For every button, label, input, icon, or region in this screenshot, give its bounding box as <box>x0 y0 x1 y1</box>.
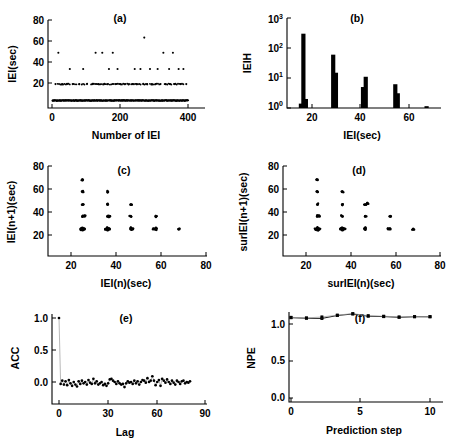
svg-text:0.0: 0.0 <box>34 377 48 388</box>
svg-text:10: 10 <box>424 406 436 417</box>
panel-c-title: (c) <box>118 164 131 176</box>
svg-text:0: 0 <box>49 112 55 123</box>
panel-d-ytick-marks <box>283 166 287 235</box>
panel-b-bars <box>299 34 429 108</box>
svg-text:0.5: 0.5 <box>271 355 285 366</box>
panel-f-xlabel: Prediction step <box>326 424 402 436</box>
panel-a-yticks: 80 60 40 20 <box>33 15 45 89</box>
svg-text:80: 80 <box>33 15 45 26</box>
svg-text:60: 60 <box>155 260 167 271</box>
svg-text:40: 40 <box>110 260 122 271</box>
svg-text:60: 60 <box>33 184 45 195</box>
panel-d-svg: (d) 80 60 40 20 20 40 60 80 <box>229 150 459 300</box>
svg-text:90: 90 <box>199 408 211 419</box>
svg-text:80: 80 <box>268 161 280 172</box>
svg-text:20: 20 <box>33 78 45 89</box>
svg-text:100: 100 <box>268 100 283 112</box>
figure-root: (a) 80 60 40 20 0 200 400 <box>0 0 459 446</box>
panel-a-ytick-marks <box>48 20 52 83</box>
panel-e-xlabel: Lag <box>116 426 135 438</box>
svg-text:20: 20 <box>300 260 312 271</box>
svg-text:102: 102 <box>268 42 283 54</box>
panel-c-xtick-marks <box>71 252 206 256</box>
panel-d-yticks: 80 60 40 20 <box>268 161 280 241</box>
panel-a-ylabel: IEI(sec) <box>6 45 18 82</box>
svg-text:0.0: 0.0 <box>271 392 285 403</box>
panel-b-xlabel: IEI(sec) <box>343 129 380 141</box>
panel-a-svg: (a) 80 60 40 20 0 200 400 <box>0 0 230 150</box>
panel-e: (e) 1.0 0.5 0.0 0 30 60 90 <box>0 300 230 446</box>
panel-a-xtick-marks <box>52 104 188 108</box>
svg-text:60: 60 <box>268 184 280 195</box>
svg-text:60: 60 <box>33 36 45 47</box>
panel-b-ytick-marks <box>287 18 291 108</box>
panel-a-title: (a) <box>114 12 127 24</box>
svg-text:5: 5 <box>357 406 363 417</box>
svg-text:1.0: 1.0 <box>271 319 285 330</box>
panel-b-title: (b) <box>350 12 363 24</box>
svg-text:80: 80 <box>33 161 45 172</box>
svg-text:20: 20 <box>268 230 280 241</box>
panel-a-points <box>52 37 190 102</box>
panel-a-axes <box>48 20 205 108</box>
svg-text:0: 0 <box>56 408 62 419</box>
svg-text:40: 40 <box>354 112 366 123</box>
svg-text:103: 103 <box>268 13 283 25</box>
panel-c: (c) 80 60 40 20 20 40 60 80 <box>0 150 230 300</box>
svg-text:0: 0 <box>288 406 294 417</box>
panel-c-ylabel: IEI(n+1)(sec) <box>5 181 17 244</box>
panel-b: (b) 103 102 101 100 <box>229 0 459 150</box>
panel-d: (d) 80 60 40 20 20 40 60 80 <box>229 150 459 300</box>
svg-text:20: 20 <box>65 260 77 271</box>
panel-c-ytick-marks <box>48 166 52 235</box>
panel-c-svg: (c) 80 60 40 20 20 40 60 80 <box>0 150 230 300</box>
panel-e-svg: (e) 1.0 0.5 0.0 0 30 60 90 <box>0 300 230 446</box>
panel-f-xticks: 0 5 10 <box>288 406 436 417</box>
panel-d-title: (d) <box>352 164 365 176</box>
panel-e-yticks: 1.0 0.5 0.0 <box>34 313 48 388</box>
svg-text:400: 400 <box>180 112 197 123</box>
svg-text:1.0: 1.0 <box>34 313 48 324</box>
svg-text:40: 40 <box>33 207 45 218</box>
panel-d-xtick-marks <box>306 252 440 256</box>
svg-text:40: 40 <box>33 57 45 68</box>
panel-a: (a) 80 60 40 20 0 200 400 <box>0 0 230 150</box>
panel-c-xlabel: IEI(n)(sec) <box>101 277 152 289</box>
panel-f-xtick-marks <box>291 398 430 402</box>
panel-d-xlabel: surIEI(n)(sec) <box>327 277 394 289</box>
svg-text:60: 60 <box>403 112 415 123</box>
panel-d-xticks: 20 40 60 80 <box>300 260 446 271</box>
panel-e-series <box>58 317 192 389</box>
panel-a-xlabel: Number of IEI <box>92 129 160 141</box>
panel-b-ylabel: IEIH <box>241 53 253 73</box>
svg-text:200: 200 <box>112 112 129 123</box>
panel-d-ylabel: surIEI(n+1)(sec) <box>237 172 249 251</box>
svg-text:40: 40 <box>268 207 280 218</box>
svg-text:80: 80 <box>200 260 212 271</box>
panel-f-ytick-marks <box>289 324 293 398</box>
panel-b-svg: (b) 103 102 101 100 <box>229 0 459 150</box>
svg-text:30: 30 <box>102 408 114 419</box>
panel-f: (f) 1.0 0.5 0.0 0 5 10 <box>229 300 459 446</box>
svg-text:101: 101 <box>268 71 283 83</box>
panel-f-yticks: 1.0 0.5 0.0 <box>271 319 285 403</box>
panel-e-ytick-marks <box>52 318 56 382</box>
svg-text:20: 20 <box>306 112 318 123</box>
svg-text:40: 40 <box>345 260 357 271</box>
panel-c-xticks: 20 40 60 80 <box>65 260 212 271</box>
panel-e-xticks: 0 30 60 90 <box>56 408 211 419</box>
panel-b-yticks: 103 102 101 100 <box>268 13 283 112</box>
panel-f-svg: (f) 1.0 0.5 0.0 0 5 10 <box>229 300 459 446</box>
panel-d-axes <box>283 166 441 256</box>
panel-e-ylabel: ACC <box>9 346 21 369</box>
svg-text:80: 80 <box>434 260 446 271</box>
panel-e-title: (e) <box>120 312 133 324</box>
panel-c-points <box>79 178 181 231</box>
panel-f-axes <box>289 312 443 402</box>
panel-d-points <box>314 178 416 231</box>
panel-e-xtick-marks <box>59 400 205 404</box>
svg-text:20: 20 <box>33 230 45 241</box>
panel-a-xticks: 0 200 400 <box>49 112 197 123</box>
panel-c-yticks: 80 60 40 20 <box>33 161 45 241</box>
panel-e-axes <box>52 314 207 404</box>
